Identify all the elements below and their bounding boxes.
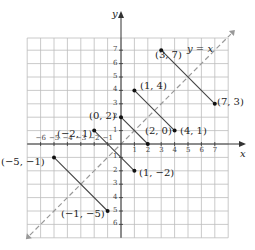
point-marker — [132, 88, 136, 92]
coordinate-plane: y x y = x −6−5−4−3−2−1123456776543211234… — [0, 0, 255, 250]
point-marker — [52, 155, 56, 159]
y-tick-label: 5 — [113, 207, 117, 214]
x-tick-label: 6 — [199, 147, 203, 154]
x-tick-label: 4 — [173, 147, 177, 154]
y-tick-label: 6 — [113, 220, 117, 227]
x-tick-label: 7 — [213, 147, 217, 154]
x-tick-label: −6 — [36, 135, 46, 142]
point-marker — [132, 169, 136, 173]
x-tick-label: 1 — [132, 147, 136, 154]
y-tick-label: 1 — [113, 153, 117, 160]
point-label: (2, 0) — [145, 126, 172, 136]
point-label: (1, −2) — [139, 168, 174, 178]
point-marker — [173, 129, 177, 133]
x-tick-label: 5 — [186, 147, 190, 154]
x-axis-label: x — [240, 148, 246, 159]
x-tick-label: 2 — [146, 147, 150, 154]
y-tick-label: 4 — [113, 194, 117, 201]
axes — [27, 11, 246, 238]
plot-svg — [0, 0, 255, 250]
y-tick-label: 6 — [113, 60, 117, 67]
point-marker — [92, 129, 96, 133]
point-label: (4, 1) — [180, 126, 207, 136]
point-label: (1, 4) — [140, 81, 167, 91]
y-axis-label: y — [112, 8, 118, 19]
point-label: (7, 3) — [217, 97, 244, 107]
point-label: (−2, 1) — [57, 129, 92, 139]
point-label: (−5, −1) — [1, 157, 45, 167]
y-tick-label: 5 — [113, 73, 117, 80]
y-tick-label: 1 — [113, 127, 117, 134]
point-label: (−1, −5) — [61, 209, 105, 219]
y-tick-label: 3 — [113, 100, 117, 107]
y-tick-label: 2 — [113, 167, 117, 174]
line-label: y = x — [187, 44, 213, 54]
point-marker — [119, 115, 123, 119]
point-label: (3, 7) — [155, 50, 182, 60]
point-marker — [106, 209, 110, 213]
y-tick-label: 4 — [113, 86, 117, 93]
y-tick-label: 3 — [113, 180, 117, 187]
y-tick-label: 7 — [113, 46, 117, 53]
x-tick-label: 3 — [159, 147, 163, 154]
point-label: (0, 2) — [89, 111, 116, 121]
x-tick-label: −1 — [103, 135, 113, 142]
